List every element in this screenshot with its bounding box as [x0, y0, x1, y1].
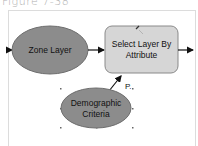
- model-diagram: Zone Layer Select Layer By Attribute P. …: [0, 0, 198, 146]
- parameter-label: P.: [125, 82, 132, 91]
- zone-layer-label: Zone Layer: [29, 45, 72, 55]
- select-layer-label-line2: Attribute: [126, 50, 158, 60]
- criteria-to-select-connector: [109, 76, 121, 91]
- zone-layer-node[interactable]: Zone Layer: [12, 26, 88, 74]
- demographic-label-line1: Demographic: [71, 98, 122, 108]
- demographic-criteria-node[interactable]: Demographic Criteria: [61, 88, 131, 128]
- select-layer-label-line1: Select Layer By: [112, 39, 172, 49]
- select-layer-by-attribute-node[interactable]: Select Layer By Attribute: [105, 26, 178, 73]
- demographic-label-line2: Criteria: [82, 109, 110, 119]
